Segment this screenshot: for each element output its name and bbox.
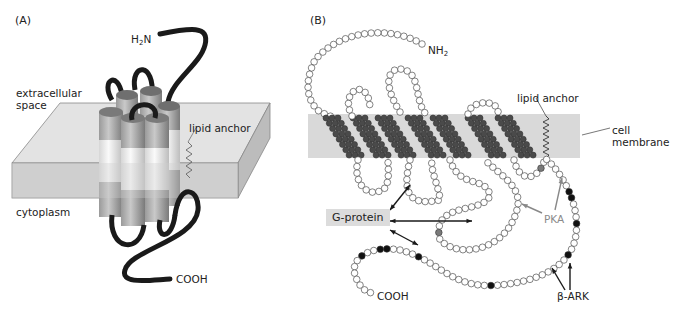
pka-label: PKA: [544, 213, 564, 225]
panel-b-tag: (B): [310, 14, 326, 27]
membrane-label: membrane: [612, 136, 669, 148]
lipid-anchor-label-b: lipid anchor: [517, 92, 579, 104]
beta-ark-label: β-ARK: [557, 290, 589, 302]
lipid-anchor-label: lipid anchor: [189, 122, 251, 134]
cytoplasm-label: cytoplasm: [16, 206, 70, 218]
panel-b-illustration: [300, 0, 676, 315]
extracellular-label: extracellular: [16, 87, 82, 99]
g-protein-box: G-protein: [326, 209, 390, 226]
n-terminal-chain: [160, 30, 206, 102]
cooh-label-b: COOH: [377, 290, 409, 302]
c-terminus-label: COOH: [176, 273, 208, 285]
panel-a-tag: (A): [15, 14, 31, 27]
nh2-label: NH2: [428, 44, 448, 60]
cell-label: cell: [612, 124, 630, 136]
extracellular-label-2: space: [16, 99, 47, 111]
n-terminus-label: H2N: [131, 33, 151, 49]
figure: (A) H2N extracellular space lipid anchor…: [0, 0, 676, 315]
